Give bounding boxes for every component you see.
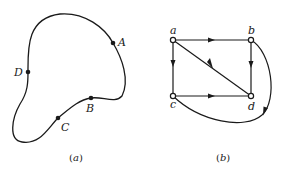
vertex-a-label: a xyxy=(170,24,177,37)
arrow-a-b xyxy=(208,38,215,43)
figure-a: A D B C (a) xyxy=(13,14,126,163)
point-d-label: D xyxy=(13,66,23,79)
caption-b: (b) xyxy=(216,152,230,163)
point-b-dot xyxy=(89,96,94,101)
point-c-label: C xyxy=(61,121,70,134)
vertex-d xyxy=(248,93,253,98)
diagram-canvas: A D B C (a) a b c d xyxy=(0,0,285,175)
point-a-dot xyxy=(111,41,116,46)
arrow-b-d xyxy=(249,61,254,68)
point-c-dot xyxy=(56,116,61,121)
point-a-label: A xyxy=(117,36,126,49)
arrow-curved xyxy=(263,107,268,116)
vertex-b-label: b xyxy=(248,24,255,37)
edge-a-d xyxy=(173,40,251,96)
edge-b-c-curved xyxy=(173,40,271,123)
vertex-b xyxy=(248,37,253,42)
vertex-c-label: c xyxy=(170,98,176,111)
caption-a: (a) xyxy=(69,152,83,163)
figure-b: a b c d (b) xyxy=(170,24,271,163)
point-b-label: B xyxy=(85,102,94,115)
arrow-a-c xyxy=(171,60,176,67)
vertex-a xyxy=(170,37,175,42)
arrow-c-d xyxy=(208,94,215,99)
point-d-dot xyxy=(26,70,31,75)
vertex-d-label: d xyxy=(248,100,255,113)
